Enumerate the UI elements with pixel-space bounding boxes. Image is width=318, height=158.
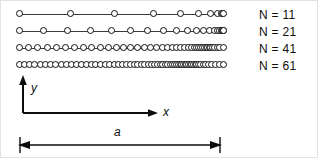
y-axis-label: y (31, 81, 37, 95)
x-axis-label: x (163, 105, 169, 119)
coordinate-axes (1, 1, 318, 158)
dimension-label-a: a (114, 125, 121, 139)
figure-canvas: N = 11 N = 21 N = 41 N = 61 y x a (0, 0, 318, 158)
